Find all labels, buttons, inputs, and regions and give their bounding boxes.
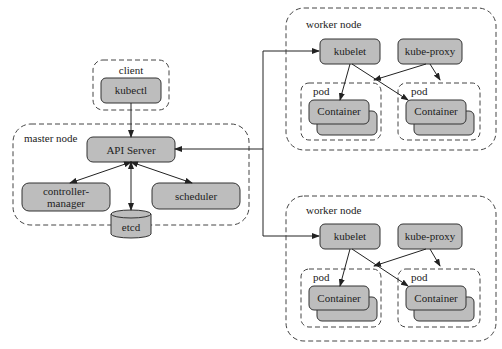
api-scheduler-arrow <box>131 162 192 183</box>
svg-text:controller-: controller- <box>43 185 90 197</box>
kubelet-box: kubelet <box>320 39 380 64</box>
worker-node-group-1: worker node kubelet kube-proxy pod Conta… <box>286 8 496 150</box>
api-controller-arrow <box>70 162 131 183</box>
client-label: client <box>119 64 143 76</box>
api-server-box: API Server <box>87 137 175 162</box>
svg-text:kubelet: kubelet <box>334 230 366 242</box>
kubernetes-architecture-diagram: client kubectl master node API Server co… <box>0 0 502 349</box>
proxy-pod-arrow <box>430 64 440 80</box>
pod-group: pod Container <box>301 269 381 327</box>
kube-proxy-box: kube-proxy <box>398 39 462 64</box>
svg-text:Container: Container <box>414 105 458 117</box>
controller-manager-box: controller- manager <box>22 183 110 211</box>
proxy-pod-arrow <box>430 249 440 266</box>
svg-text:scheduler: scheduler <box>175 190 217 202</box>
container-box: Container <box>309 286 369 310</box>
kube-proxy-box: kube-proxy <box>398 224 462 249</box>
container-box: Container <box>406 286 466 310</box>
svg-text:Container: Container <box>414 292 458 304</box>
svg-text:pod: pod <box>313 85 330 97</box>
svg-text:pod: pod <box>313 271 330 283</box>
svg-text:manager: manager <box>47 197 85 209</box>
worker-node-group-2: worker node kubelet kube-proxy pod Conta… <box>286 196 496 341</box>
proxy-pod-arrow <box>374 249 426 266</box>
worker-node-label: worker node <box>306 204 361 216</box>
svg-text:pod: pod <box>411 85 428 97</box>
kubectl-box: kubectl <box>101 78 161 103</box>
svg-text:kubectl: kubectl <box>115 84 147 96</box>
worker-node-label: worker node <box>306 18 361 30</box>
svg-text:Container: Container <box>317 292 361 304</box>
svg-text:kube-proxy: kube-proxy <box>405 45 456 57</box>
kubelet-container-arrow <box>340 64 350 100</box>
pod-group: pod Container <box>301 83 381 140</box>
kubelet-container-arrow <box>352 249 408 286</box>
scheduler-box: scheduler <box>152 183 240 209</box>
etcd-cylinder: etcd <box>111 210 151 238</box>
container-box: Container <box>309 100 369 124</box>
svg-text:etcd: etcd <box>122 221 141 233</box>
pod-group: pod Container <box>398 83 480 140</box>
pod-group: pod Container <box>398 269 480 327</box>
svg-text:API Server: API Server <box>106 144 156 156</box>
kubelet-box: kubelet <box>320 224 380 249</box>
svg-text:pod: pod <box>411 271 428 283</box>
proxy-pod-arrow <box>374 64 426 80</box>
master-node-label: master node <box>24 132 78 144</box>
svg-text:Container: Container <box>317 105 361 117</box>
kubelet-container-arrow <box>340 249 350 286</box>
kubelet-container-arrow <box>352 64 408 100</box>
svg-text:kube-proxy: kube-proxy <box>405 230 456 242</box>
client-group: client kubectl <box>93 60 169 110</box>
svg-text:kubelet: kubelet <box>334 45 366 57</box>
container-box: Container <box>406 100 466 124</box>
